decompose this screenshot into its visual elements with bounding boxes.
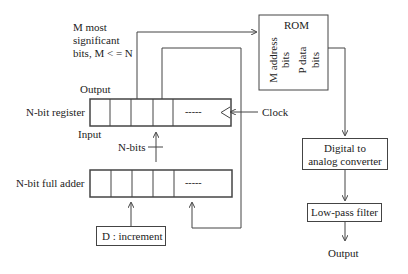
rom-address-line1: M address	[267, 35, 279, 85]
register-dots: -----	[185, 105, 202, 118]
connector-lines	[0, 0, 408, 274]
register-input-label: Input	[78, 128, 101, 141]
nbits-label: N-bits	[118, 141, 146, 154]
increment-label: D : increment	[102, 230, 162, 243]
dac-label-line2: analog converter	[303, 155, 387, 168]
msb-label-line3: bits, M < = N	[73, 47, 133, 60]
msb-label-line2: significant	[73, 34, 119, 47]
clock-label: Clock	[262, 106, 288, 119]
rom-address-line2: bits	[279, 35, 291, 85]
msb-label-line1: M most	[73, 21, 107, 34]
adder-label: N-bit full adder	[16, 177, 84, 190]
adder-dots: -----	[185, 176, 202, 189]
final-output-label: Output	[328, 247, 359, 260]
lpf-label: Low-pass filter	[308, 206, 381, 219]
diagram-canvas: M most significant bits, M < = N Output …	[0, 0, 408, 274]
register-label: N-bit register	[26, 106, 85, 119]
dac-label-line1: Digital to	[303, 142, 387, 155]
increment-box: D : increment	[96, 226, 166, 246]
register-output-label: Output	[80, 83, 111, 96]
rom-data-line2: bits	[309, 40, 321, 80]
rom-title: ROM	[284, 19, 309, 32]
rom-data-line1: P data	[296, 40, 308, 80]
dac-box: Digital to analog converter	[302, 138, 388, 170]
lpf-box: Low-pass filter	[307, 203, 382, 222]
